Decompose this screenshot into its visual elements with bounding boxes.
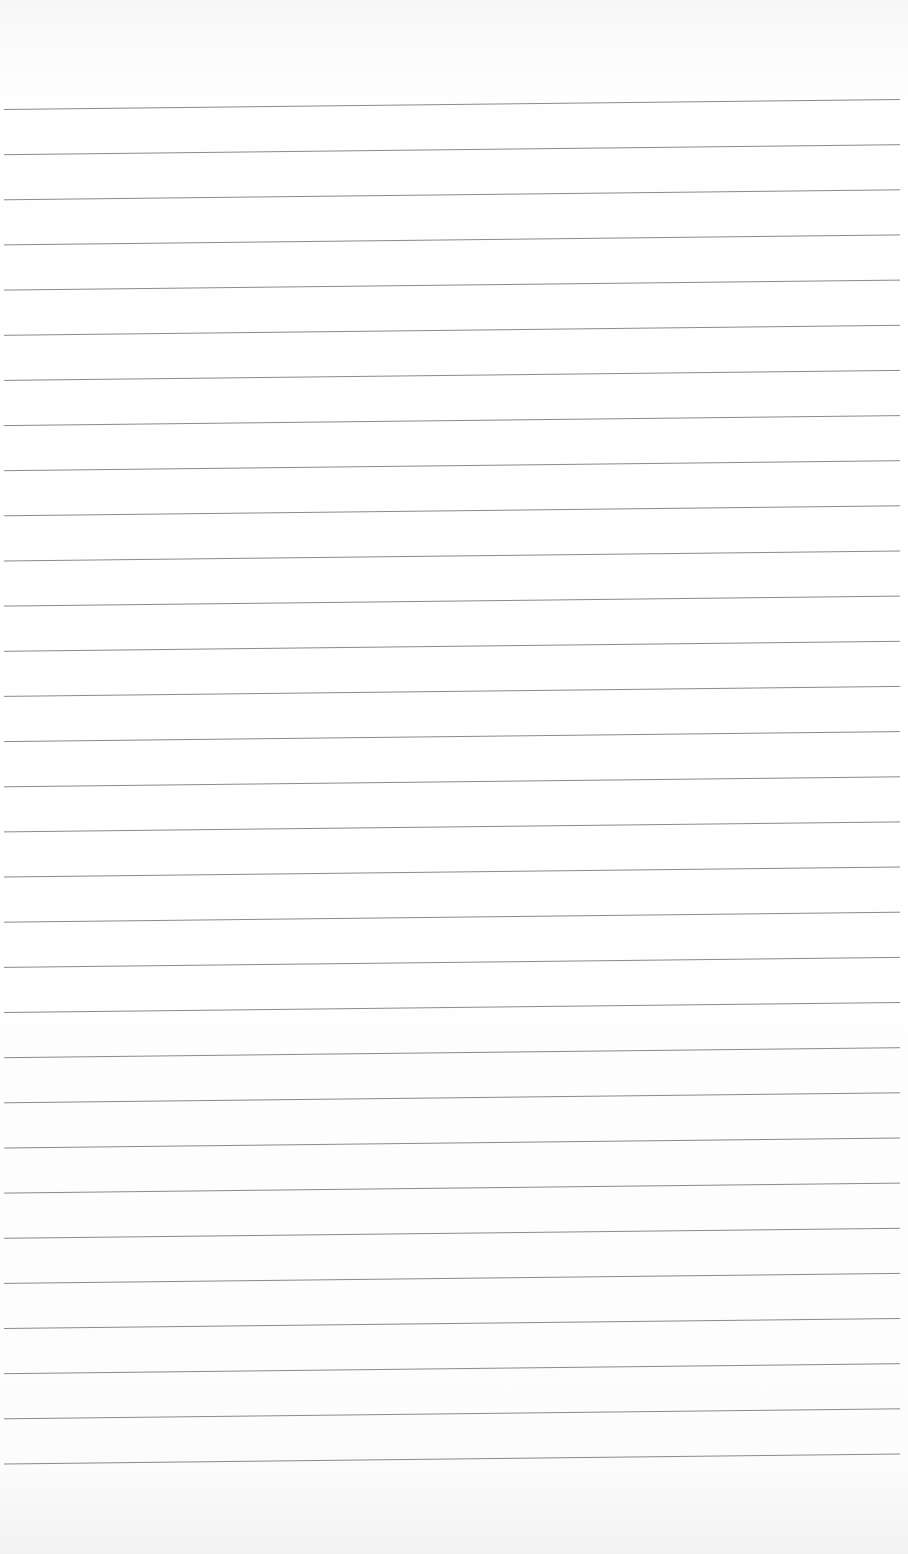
ruled-line	[4, 551, 900, 561]
ruled-line	[4, 235, 900, 245]
ruled-line	[4, 416, 900, 426]
ruled-line	[4, 100, 900, 110]
ruled-line	[4, 370, 900, 380]
ruled-line	[4, 1138, 900, 1148]
ruled-line	[4, 732, 900, 742]
ruled-line	[4, 1183, 900, 1193]
ruled-line	[4, 641, 900, 651]
ruled-line	[4, 461, 900, 471]
ruled-line	[4, 506, 900, 516]
ruled-line	[4, 777, 900, 787]
ruled-lines	[0, 0, 908, 1554]
ruled-line	[4, 190, 900, 200]
ruled-line	[4, 1003, 900, 1013]
ruled-line	[4, 325, 900, 335]
ruled-line	[4, 822, 900, 832]
ruled-line	[4, 1048, 900, 1058]
ruled-line	[4, 912, 900, 922]
ruled-line	[4, 145, 900, 155]
ruled-line	[4, 686, 900, 696]
ruled-line	[4, 957, 900, 967]
ruled-line	[4, 1454, 900, 1464]
ruled-line	[4, 280, 900, 290]
ruled-line	[4, 1228, 900, 1238]
ruled-line	[4, 1364, 900, 1374]
ruled-line	[4, 596, 900, 606]
ruled-line	[4, 1319, 900, 1329]
lined-paper-sheet	[0, 0, 908, 1554]
ruled-line	[4, 1273, 900, 1283]
ruled-line	[4, 1409, 900, 1419]
ruled-line	[4, 1093, 900, 1103]
ruled-line	[4, 867, 900, 877]
